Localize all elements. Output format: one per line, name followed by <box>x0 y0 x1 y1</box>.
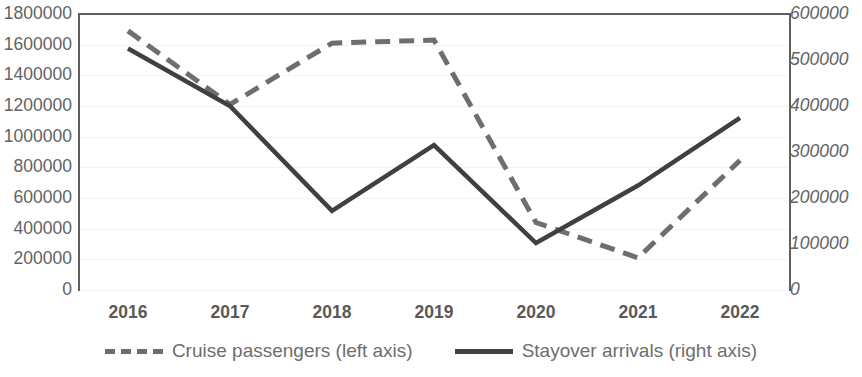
legend-label: Stayover arrivals (right axis) <box>522 340 757 362</box>
legend-entry[interactable]: Cruise passengers (left axis) <box>105 340 413 362</box>
x-axis-tick-label: 2019 <box>394 302 474 323</box>
legend-swatch-icon <box>455 349 513 354</box>
line-chart: 1800000160000014000001200000100000080000… <box>0 0 862 377</box>
x-axis-tick-label: 2017 <box>190 302 270 323</box>
legend-label: Cruise passengers (left axis) <box>172 340 413 362</box>
x-axis-tick-label: 2018 <box>292 302 372 323</box>
legend-entry[interactable]: Stayover arrivals (right axis) <box>455 340 757 362</box>
x-axis-tick-label: 2020 <box>496 302 576 323</box>
legend-swatch-icon <box>105 349 163 354</box>
chart-legend: Cruise passengers (left axis)Stayover ar… <box>0 340 862 362</box>
x-axis-tick-label: 2022 <box>700 302 780 323</box>
x-axis-tick-label: 2021 <box>598 302 678 323</box>
x-axis-tick-label: 2016 <box>88 302 168 323</box>
series-line <box>128 49 740 244</box>
